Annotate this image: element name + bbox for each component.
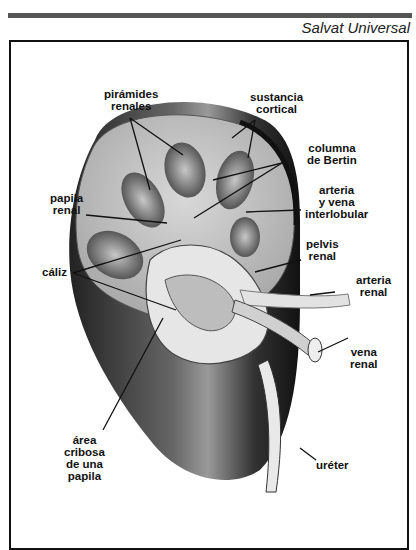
label-piramides-renales: pirámides renales (104, 88, 158, 112)
label-pelvis-renal: pelvis renal (306, 238, 339, 262)
label-columna-bertin: columna de Bertin (307, 142, 357, 166)
label-papila-renal: papila renal (50, 192, 83, 216)
label-arteria-renal: arteria renal (356, 274, 391, 298)
label-ureter: uréter (316, 459, 349, 471)
label-vena-renal: vena renal (350, 346, 378, 370)
label-arteria-vena-interlobular: arteria y vena interlobular (305, 184, 368, 220)
label-area-cribosa: área cribosa de una papila (64, 434, 105, 482)
label-sustancia-cortical: sustancia cortical (250, 91, 303, 115)
label-caliz: cáliz (42, 266, 67, 278)
